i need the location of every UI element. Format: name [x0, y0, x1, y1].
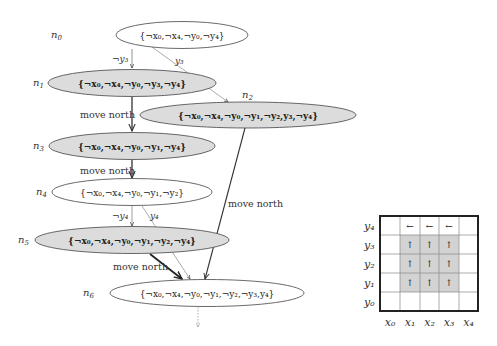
- node-n6-label: n6: [83, 287, 94, 300]
- edge-label-n2-n6: move north: [228, 198, 283, 209]
- edge-label-n5-n6: move north: [113, 261, 168, 272]
- node-n1: {¬x₀,¬x₄,¬y₀,¬y₃,¬y₄} n1: [33, 70, 216, 97]
- up-arrow-icon: ↑: [445, 278, 453, 288]
- policy-graph-diagram: ¬y₃ y₃ move north move north move north …: [0, 0, 497, 346]
- left-arrow-icon: ←: [445, 221, 453, 231]
- node-n5-formula: {¬x₀,¬x₄,¬y₀,¬y₁,¬y₂,¬y₄}: [68, 236, 196, 247]
- col-label-x4: x₄: [463, 316, 474, 329]
- row-label-y3: y₃: [363, 239, 375, 252]
- node-n1-label: n1: [33, 77, 44, 90]
- up-arrow-icon: ↑: [406, 240, 414, 250]
- up-arrow-icon: ↑: [406, 259, 414, 269]
- up-arrow-icon: ↑: [445, 259, 453, 269]
- col-label-x0: x₀: [385, 316, 396, 329]
- col-label-x2: x₂: [424, 316, 435, 329]
- node-n2-formula: {¬x₀,¬x₄,¬y₀,¬y₁,¬y₂,y₃,¬y₄}: [178, 111, 318, 122]
- row-label-y4: y₄: [363, 220, 375, 233]
- col-label-x1: x₁: [405, 316, 416, 329]
- up-arrow-icon: ↑: [445, 240, 453, 250]
- node-n0-label: n0: [51, 29, 62, 42]
- node-n3-formula: {¬x₀,¬x₄,¬y₀,¬y₁,¬y₄}: [78, 142, 186, 153]
- node-n3: {¬x₀,¬x₄,¬y₀,¬y₁,¬y₄} n3: [33, 133, 215, 160]
- node-n6: {¬x₀,¬x₄,¬y₀,¬y₁,¬y₂,¬y₃,y₄} n6: [83, 280, 304, 307]
- edge-label-n3-n4: move north: [80, 165, 135, 176]
- node-n5-label: n5: [18, 234, 29, 247]
- left-arrow-icon: ←: [406, 221, 414, 231]
- up-arrow-icon: ↑: [426, 259, 434, 269]
- node-n0-formula: {¬x₀,¬x₄,¬y₀,¬y₄}: [140, 31, 225, 41]
- node-n0: {¬x₀,¬x₄,¬y₀,¬y₄} n0: [51, 22, 248, 49]
- node-n1-formula: {¬x₀,¬x₄,¬y₀,¬y₃,¬y₄}: [78, 79, 186, 90]
- up-arrow-icon: ↑: [426, 278, 434, 288]
- edge-label-n0-n2: y₃: [174, 56, 184, 66]
- node-n6-formula: {¬x₀,¬x₄,¬y₀,¬y₁,¬y₂,¬y₃,y₄}: [140, 289, 275, 299]
- grid-world: ← ← ← ↑ ↑ ↑ ↑ ↑ ↑ ↑ ↑ ↑ y₄ y₃ y₂ y₁ y₀ x…: [363, 216, 478, 329]
- edge-label-n1-n3: move north: [80, 109, 135, 120]
- node-n4-formula: {¬x₀,¬x₄,¬y₀,¬y₁,¬y₂}: [80, 188, 184, 198]
- edge-label-n0-n1: ¬y₃: [112, 54, 129, 64]
- row-label-y2: y₂: [363, 258, 375, 271]
- col-label-x3: x₃: [444, 316, 455, 329]
- node-n5: {¬x₀,¬x₄,¬y₀,¬y₁,¬y₂,¬y₄} n5: [18, 227, 229, 254]
- left-arrow-icon: ←: [426, 221, 434, 231]
- node-n2-label: n2: [242, 89, 253, 102]
- node-n4-label: n4: [36, 186, 47, 199]
- edge-label-n4-n5: ¬y₄: [112, 211, 129, 221]
- row-label-y0: y₀: [363, 296, 375, 309]
- node-n4: {¬x₀,¬x₄,¬y₀,¬y₁,¬y₂} n4: [36, 179, 212, 206]
- up-arrow-icon: ↑: [426, 240, 434, 250]
- edge-label-n4-n6: y₄: [149, 211, 159, 221]
- node-n3-label: n3: [33, 140, 44, 153]
- up-arrow-icon: ↑: [406, 278, 414, 288]
- row-label-y1: y₁: [363, 277, 375, 290]
